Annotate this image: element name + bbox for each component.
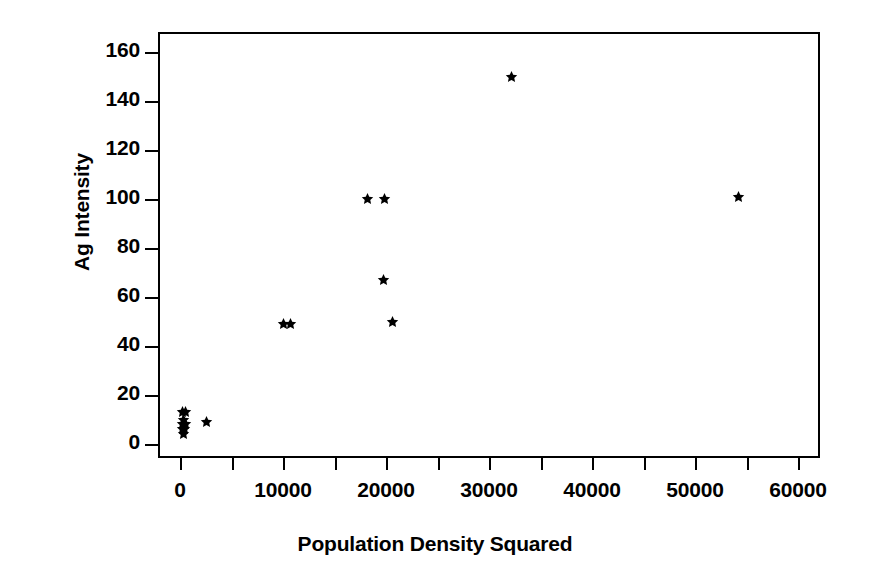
x-tick-mark	[592, 458, 594, 470]
x-tick-mark-minor	[747, 458, 749, 470]
y-tick-mark	[145, 248, 158, 250]
y-tick-label: 120	[70, 136, 140, 160]
data-point-marker	[361, 192, 374, 205]
y-tick-mark	[145, 346, 158, 348]
y-tick-mark	[145, 199, 158, 201]
y-tick-mark	[145, 444, 158, 446]
data-point-marker	[378, 192, 391, 205]
x-tick-mark-minor	[232, 458, 234, 470]
x-tick-mark	[695, 458, 697, 470]
x-tick-mark-minor	[644, 458, 646, 470]
y-tick-mark	[145, 395, 158, 397]
y-tick-label: 60	[70, 283, 140, 307]
data-point-marker	[200, 415, 213, 428]
y-tick-label: 140	[70, 87, 140, 111]
scatter-plot-figure: Ag Intensity 020406080100120140160 01000…	[0, 0, 870, 582]
y-tick-mark	[145, 52, 158, 54]
data-point-marker	[176, 422, 189, 435]
data-point-marker	[505, 70, 518, 83]
y-tick-mark	[145, 101, 158, 103]
x-tick-mark-minor	[438, 458, 440, 470]
data-point-marker	[176, 405, 189, 418]
x-tick-mark-minor	[335, 458, 337, 470]
y-tick-label: 80	[70, 234, 140, 258]
data-point-marker	[377, 273, 390, 286]
x-axis-title: Population Density Squared	[0, 532, 870, 556]
x-tick-mark	[180, 458, 182, 470]
data-point-marker	[732, 190, 745, 203]
y-tick-label: 0	[70, 430, 140, 454]
data-point-marker	[178, 422, 191, 435]
data-point-marker	[284, 317, 297, 330]
x-tick-mark	[386, 458, 388, 470]
x-tick-mark	[798, 458, 800, 470]
y-tick-mark	[145, 150, 158, 152]
y-tick-label: 100	[70, 185, 140, 209]
y-tick-label: 160	[70, 38, 140, 62]
data-point-marker	[177, 427, 190, 440]
data-point-marker	[179, 417, 192, 430]
plot-area	[158, 32, 820, 458]
x-tick-mark	[283, 458, 285, 470]
x-tick-mark	[489, 458, 491, 470]
x-tick-label: 60000	[728, 478, 868, 502]
y-tick-mark	[145, 297, 158, 299]
y-tick-label: 40	[70, 332, 140, 356]
data-point-marker	[386, 315, 399, 328]
data-point-marker	[179, 405, 192, 418]
x-tick-mark-minor	[541, 458, 543, 470]
y-tick-label: 20	[70, 381, 140, 405]
data-point-marker	[176, 417, 189, 430]
data-point-marker	[277, 317, 290, 330]
data-point-marker	[177, 413, 190, 426]
